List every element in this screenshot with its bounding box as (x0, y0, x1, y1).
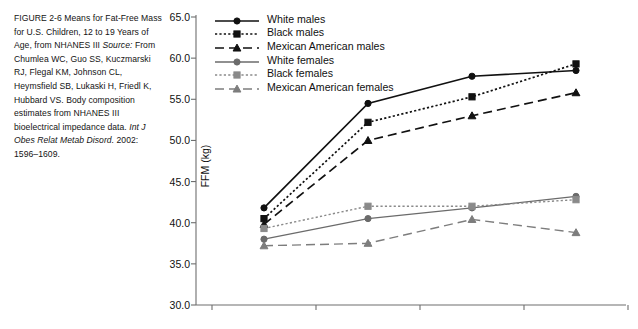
y-tick-label: 35.0 (170, 258, 190, 270)
y-tick-label: 30.0 (170, 299, 190, 311)
legend-swatch-triangle-icon (214, 40, 260, 52)
chart-container: FFM (kg) 30.035.040.045.050.055.060.065.… (196, 8, 626, 320)
series-line (261, 193, 579, 242)
y-axis-ticks (191, 17, 196, 305)
legend-item[interactable]: Black females (214, 66, 394, 80)
figure-root: FIGURE 2-6 Means for Fat-Free Mass for U… (0, 0, 638, 329)
source-prefix: Source: (102, 40, 132, 50)
legend-swatch-triangle-icon (214, 81, 260, 93)
data-point (261, 225, 267, 231)
y-tick-label: 50.0 (170, 134, 190, 146)
data-point (365, 203, 371, 209)
data-point (365, 119, 371, 125)
data-point (572, 89, 580, 96)
legend-item[interactable]: White females (214, 53, 394, 67)
legend-label: Black males (267, 26, 324, 38)
series-line (260, 216, 580, 249)
figure-number: FIGURE 2-6 (14, 13, 62, 23)
legend-item[interactable]: White males (214, 12, 394, 26)
legend-label: Mexican American males (267, 40, 385, 52)
legend-item[interactable]: Black males (214, 26, 394, 40)
data-point (573, 61, 579, 67)
legend-swatch-square-icon (214, 67, 260, 79)
data-point (468, 216, 476, 223)
data-point (573, 197, 579, 203)
y-tick-label: 65.0 (170, 11, 190, 23)
legend-swatch-circle-icon (214, 13, 260, 25)
data-point (365, 216, 371, 222)
legend-swatch-square-icon (214, 26, 260, 38)
data-point (261, 205, 267, 211)
legend-label: Black females (267, 67, 333, 79)
data-point (469, 203, 475, 209)
y-tick-label: 60.0 (170, 52, 190, 64)
x-axis-ticks (212, 305, 628, 310)
y-tick-label: 45.0 (170, 176, 190, 188)
chart-legend: White malesBlack malesMexican American m… (214, 12, 394, 94)
legend-label: White females (267, 54, 334, 66)
legend-item[interactable]: Mexican American males (214, 39, 394, 53)
data-point (469, 94, 475, 100)
data-point (469, 73, 475, 79)
source-text: From Chumlea WC, Guo SS, Kuczmarski RJ, … (14, 40, 155, 132)
legend-label: White males (267, 13, 325, 25)
y-tick-label: 55.0 (170, 93, 190, 105)
legend-item[interactable]: Mexican American females (214, 80, 394, 94)
data-point (573, 67, 579, 73)
data-point (364, 137, 372, 144)
data-point (365, 100, 371, 106)
y-tick-label: 40.0 (170, 217, 190, 229)
legend-swatch-circle-icon (214, 54, 260, 66)
figure-caption: FIGURE 2-6 Means for Fat-Free Mass for U… (14, 12, 164, 162)
legend-label: Mexican American females (267, 81, 394, 93)
